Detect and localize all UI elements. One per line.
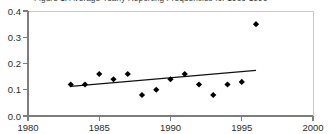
y-axis bbox=[23, 11, 28, 116]
x-tick-label: 1995 bbox=[231, 122, 252, 133]
y-tick-label: 0.3 bbox=[8, 32, 21, 43]
y-tick-label: 0.2 bbox=[8, 58, 21, 69]
data-point bbox=[196, 81, 202, 87]
data-point bbox=[239, 79, 245, 85]
x-tick-label: 2000 bbox=[302, 122, 323, 133]
x-tick-label: 1990 bbox=[160, 122, 181, 133]
data-point-group bbox=[68, 21, 259, 98]
data-point bbox=[139, 92, 145, 98]
x-tick-labels: 1980 1985 1990 1995 2000 bbox=[17, 122, 323, 133]
x-tick-label: 1980 bbox=[17, 122, 38, 133]
x-tick-label: 1985 bbox=[89, 122, 110, 133]
y-tick-label: 0.1 bbox=[8, 84, 21, 95]
plot-frame bbox=[28, 11, 313, 116]
data-point bbox=[96, 71, 102, 77]
x-axis bbox=[28, 116, 313, 121]
data-point bbox=[125, 71, 131, 77]
y-tick-labels: 0.4 0.3 0.2 0.1 0.0 bbox=[8, 6, 21, 122]
y-tick-label: 0.4 bbox=[8, 6, 21, 17]
data-point bbox=[224, 81, 230, 87]
data-point bbox=[82, 81, 88, 87]
data-point bbox=[110, 76, 116, 82]
chart-figure: Figure 1: Average Yearly Reporting Frequ… bbox=[0, 0, 330, 134]
data-point bbox=[253, 21, 259, 27]
data-point bbox=[210, 92, 216, 98]
data-point bbox=[153, 87, 159, 93]
scatter-plot: 0.4 0.3 0.2 0.1 0.0 1980 1985 1990 1995 … bbox=[0, 0, 330, 134]
y-tick-label: 0.0 bbox=[8, 111, 21, 122]
